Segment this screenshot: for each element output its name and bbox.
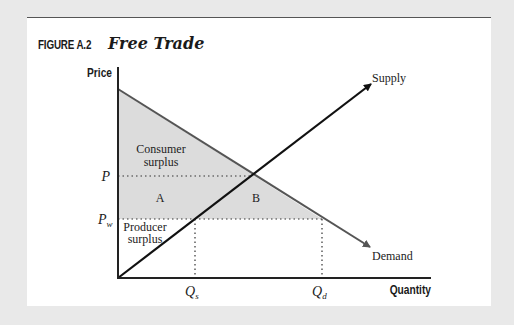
qs-main: Q <box>185 284 195 299</box>
pw-main: P <box>97 212 107 227</box>
pw-subscript: w <box>107 219 113 229</box>
price-tick-pw: Pw <box>97 212 113 229</box>
quantity-tick-qs: Qs <box>185 284 199 301</box>
free-trade-chart: Price Quantity Supply Demand Consumer su… <box>0 0 514 325</box>
region-a-label: A <box>156 191 165 205</box>
region-b-label: B <box>252 191 260 205</box>
qd-main: Q <box>312 284 322 299</box>
qd-subscript: d <box>322 291 327 301</box>
demand-label: Demand <box>372 249 413 263</box>
y-axis-label: Price <box>87 66 112 79</box>
consumer-surplus-label-line1: Consumer <box>136 142 185 156</box>
supply-label: Supply <box>372 71 406 85</box>
qs-subscript: s <box>195 291 199 301</box>
price-tick-p: P <box>100 169 110 184</box>
consumer-surplus-label-line2: surplus <box>144 155 179 169</box>
quantity-tick-qd: Qd <box>312 284 327 301</box>
producer-surplus-label-line2: surplus <box>128 232 163 246</box>
x-axis-label: Quantity <box>390 283 432 296</box>
